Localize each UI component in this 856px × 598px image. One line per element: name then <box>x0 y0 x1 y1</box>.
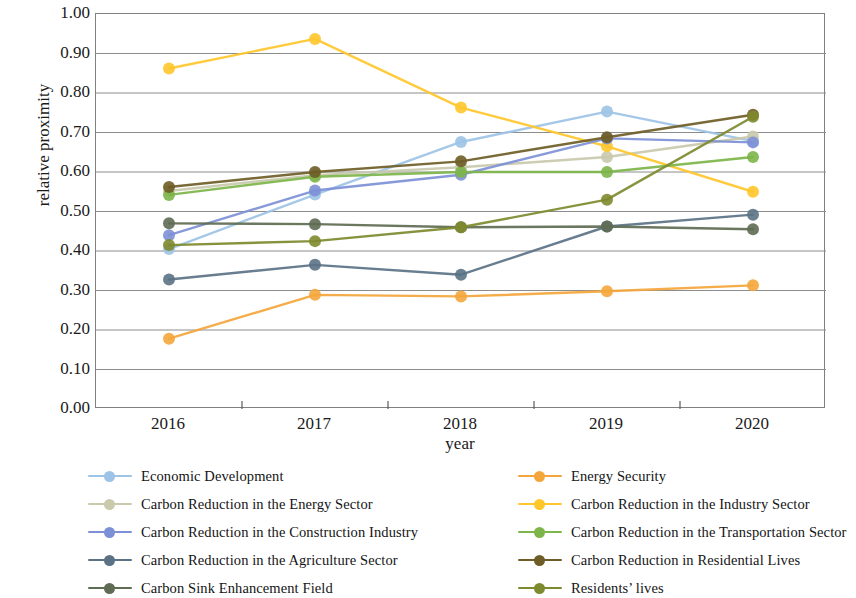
data-point-marker <box>747 151 759 163</box>
legend-line-marker-icon <box>88 526 132 538</box>
legend-label: Carbon Reduction in the Transportation S… <box>571 524 847 541</box>
legend-line-marker-icon <box>518 554 562 566</box>
y-tick-label: 1.00 <box>60 6 90 20</box>
data-point-marker <box>455 166 467 178</box>
x-tick-label: 2016 <box>151 414 185 434</box>
data-point-marker <box>309 235 321 247</box>
legend-item[interactable]: Carbon Reduction in Residential Lives <box>518 546 856 574</box>
legend-item[interactable]: Economic Development <box>88 462 458 490</box>
series-6 <box>163 209 759 286</box>
legend-item[interactable]: Carbon Reduction in the Energy Sector <box>88 490 458 518</box>
legend-line-marker-icon <box>88 554 132 566</box>
data-point-marker <box>163 273 175 285</box>
x-tick-label: 2020 <box>735 414 769 434</box>
x-tick-label: 2018 <box>443 414 477 434</box>
y-tick-label: 0.00 <box>60 401 90 415</box>
data-point-marker <box>747 209 759 221</box>
y-axis-tick-labels: 0.000.100.200.300.400.500.600.700.800.90… <box>28 0 90 420</box>
data-point-marker <box>747 279 759 291</box>
y-tick-label: 0.30 <box>60 283 90 297</box>
legend-label: Carbon Reduction in the Agriculture Sect… <box>141 552 398 569</box>
data-point-marker <box>163 217 175 229</box>
legend-line-marker-icon <box>88 470 132 482</box>
data-point-marker <box>309 218 321 230</box>
data-point-marker <box>601 151 613 163</box>
y-tick-label: 0.10 <box>60 362 90 376</box>
data-point-marker <box>163 333 175 345</box>
line-chart: relative proximity 0.000.100.200.300.400… <box>0 0 856 598</box>
data-point-marker <box>601 285 613 297</box>
legend-line-marker-icon <box>88 498 132 510</box>
x-tick-label: 2017 <box>297 414 331 434</box>
x-axis-title: year <box>95 434 825 454</box>
data-point-marker <box>309 33 321 45</box>
data-point-marker <box>163 63 175 75</box>
legend-label: Carbon Reduction in the Energy Sector <box>141 496 373 513</box>
data-point-marker <box>309 259 321 271</box>
data-point-marker <box>455 290 467 302</box>
y-tick-label: 0.60 <box>60 164 90 178</box>
data-point-marker <box>455 102 467 114</box>
legend-item[interactable]: Residents’ lives <box>518 574 856 598</box>
series-canvas <box>96 14 826 409</box>
legend-line-marker-icon <box>518 470 562 482</box>
legend-line-marker-icon <box>518 526 562 538</box>
y-tick-label: 0.70 <box>60 125 90 139</box>
legend-label: Carbon Reduction in the Industry Sector <box>571 496 810 513</box>
legend-label: Energy Security <box>571 468 666 485</box>
legend-label: Economic Development <box>141 468 284 485</box>
data-point-marker <box>601 166 613 178</box>
legend-line-marker-icon <box>518 498 562 510</box>
legend-column-left: Economic DevelopmentCarbon Reduction in … <box>88 462 458 598</box>
data-point-marker <box>455 221 467 233</box>
data-point-marker <box>163 181 175 193</box>
data-point-marker <box>747 136 759 148</box>
legend-label: Carbon Reduction in the Construction Ind… <box>141 524 418 541</box>
legend-item[interactable]: Carbon Reduction in the Transportation S… <box>518 518 856 546</box>
data-point-marker <box>455 136 467 148</box>
plot-area <box>95 13 825 408</box>
data-point-marker <box>601 194 613 206</box>
legend-line-marker-icon <box>88 582 132 594</box>
data-point-marker <box>163 239 175 251</box>
y-tick-label: 0.20 <box>60 322 90 336</box>
data-point-marker <box>747 186 759 198</box>
legend-item[interactable]: Carbon Reduction in the Agriculture Sect… <box>88 546 458 574</box>
legend-label: Residents’ lives <box>571 580 664 597</box>
legend-item[interactable]: Carbon Reduction in the Construction Ind… <box>88 518 458 546</box>
y-tick-label: 0.50 <box>60 204 90 218</box>
data-point-marker <box>601 131 613 143</box>
y-tick-label: 0.40 <box>60 243 90 257</box>
data-point-marker <box>601 106 613 118</box>
y-tick-label: 0.80 <box>60 85 90 99</box>
data-point-marker <box>309 166 321 178</box>
data-point-marker <box>309 289 321 301</box>
data-point-marker <box>309 185 321 197</box>
data-point-marker <box>455 269 467 281</box>
chart-legend: Economic DevelopmentCarbon Reduction in … <box>88 462 848 594</box>
y-tick-label: 0.90 <box>60 46 90 60</box>
legend-column-right: Energy SecurityCarbon Reduction in the I… <box>518 462 856 598</box>
legend-item[interactable]: Carbon Reduction in the Industry Sector <box>518 490 856 518</box>
data-point-marker <box>601 221 613 233</box>
legend-item[interactable]: Carbon Sink Enhancement Field <box>88 574 458 598</box>
data-point-marker <box>455 155 467 167</box>
legend-label: Carbon Reduction in Residential Lives <box>571 552 800 569</box>
data-point-marker <box>747 111 759 123</box>
x-tick-label: 2019 <box>589 414 623 434</box>
legend-line-marker-icon <box>518 582 562 594</box>
legend-item[interactable]: Energy Security <box>518 462 856 490</box>
data-point-marker <box>747 223 759 235</box>
series-1 <box>163 279 759 344</box>
legend-label: Carbon Sink Enhancement Field <box>141 580 333 597</box>
